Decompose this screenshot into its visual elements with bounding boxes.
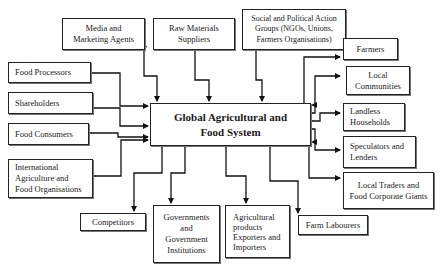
box-landless-households: Landless Households [343,103,405,131]
box-agricultural-products-exporters-importers: Agricultural products Exporters and Impo… [225,205,290,258]
box-shareholders: Shareholders [8,92,93,114]
label: Farmers [357,44,385,55]
box-social-political-action-groups: Social and Political Action Groups (NGOs… [242,9,346,50]
label: Local Traders and [358,180,419,191]
label: Agricultural [233,212,275,222]
box-farmers: Farmers [343,38,398,60]
label: Social and Political Action [251,14,337,25]
label: and [180,223,192,234]
central-title-line-2: Food System [200,125,260,140]
arrow-farm-labourers [270,147,298,213]
label: Lenders [350,152,377,163]
arrow-competitors [134,147,162,211]
label: Exporters and [233,232,280,242]
central-title-line-1: Global Agricultural and [174,110,287,125]
arrow-shareholders [95,108,148,126]
label: Landless [350,106,380,117]
label: International [15,162,58,173]
label: Farm Labourers [306,220,361,231]
central-box-global-agricultural-food-system: Global Agricultural and Food System [150,103,311,146]
label: Food Consumers [15,129,73,140]
label: Food Corporate Giants [350,191,428,202]
box-food-processors: Food Processors [8,62,91,83]
box-media-marketing-agents: Media and Marketing Agents [62,18,145,50]
box-raw-materials-suppliers: Raw Materials Suppliers [153,18,235,50]
arrow-local-communities [312,76,340,113]
label: products [233,222,262,232]
box-speculators-lenders: Speculators and Lenders [343,136,416,168]
box-governments-institutions: Governments and Government Institutions [153,205,220,263]
label: Suppliers [178,34,210,45]
box-international-agriculture-food-organisations: International Agriculture and Food Organ… [8,159,93,198]
label: Marketing Agents [73,34,134,45]
label: Governments [164,212,210,223]
arrow-social [256,51,262,101]
box-food-consumers: Food Consumers [8,123,89,145]
label: Speculators and [350,141,404,152]
label: Farmers Organisations) [256,35,331,46]
box-local-communities: Local Communities [346,66,410,95]
label: Importers [233,242,266,252]
label: Food Organisations [15,184,82,195]
arrow-food-consumers [91,133,148,137]
label: Communities [355,81,401,92]
arrow-local-traders [309,142,340,178]
label: Agriculture and [15,173,69,184]
arrow-food-processors [93,73,148,106]
box-farm-labourers: Farm Labourers [298,215,368,235]
label: Competitors [92,217,134,228]
label: Government [165,234,208,245]
label: Groups (NGOs, Unions, [255,24,333,35]
label: Food Processors [15,67,71,78]
box-competitors: Competitors [80,213,146,231]
arrow-landless [312,113,340,121]
arrow-governments [171,147,185,203]
box-local-traders-food-corporate-giants: Local Traders and Food Corporate Giants [343,172,434,209]
arrow-media [144,51,157,101]
arrow-raw-materials [195,51,209,101]
label: Raw Materials [169,23,219,34]
label: Institutions [167,245,205,256]
label: Households [350,117,390,128]
arrow-farmers [304,57,340,105]
label: Media and [85,23,121,34]
label: Shareholders [15,98,59,109]
arrow-international [95,140,148,176]
arrow-speculators [312,129,340,150]
arrow-agri-exporters [226,147,246,203]
label: Local [368,70,387,81]
